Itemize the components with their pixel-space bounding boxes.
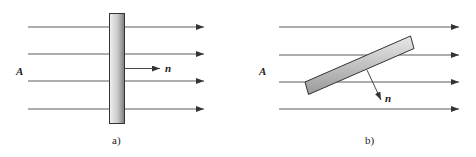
plate-b bbox=[305, 36, 414, 95]
caption-a: a) bbox=[112, 135, 121, 146]
panel-a bbox=[28, 14, 204, 124]
diagram-canvas bbox=[0, 0, 476, 157]
caption-b: b) bbox=[365, 135, 374, 146]
plate-a bbox=[110, 14, 125, 124]
field-label-a: A bbox=[16, 66, 23, 77]
normal-arrow-b bbox=[367, 70, 381, 100]
normal-label-b: n bbox=[385, 93, 391, 104]
panel-b bbox=[279, 27, 459, 109]
diagram-root: A n a) A n b) bbox=[0, 0, 476, 157]
normal-label-a: n bbox=[165, 63, 171, 74]
field-label-b: A bbox=[259, 66, 266, 77]
